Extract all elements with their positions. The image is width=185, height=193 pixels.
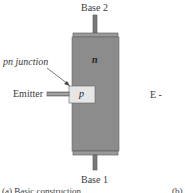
caption-a: (a) Basic construction [2,186,81,193]
emitter-label: Emitter [13,88,43,99]
pn-junction-text: pn junction [3,56,48,67]
base2-label: Base 2 [81,2,108,13]
base1-lead [93,155,97,170]
base1-label: Base 1 [81,174,108,185]
pn-junction-arrow [47,68,68,84]
caption-b: (b) [172,186,183,193]
base1-contact-plate [73,151,118,155]
n-region-label: n [92,54,98,65]
pn-junction-label: pn junction [3,56,48,67]
side-e-label: E - [150,89,162,100]
p-region-label: p [79,88,84,99]
base2-lead [93,15,97,34]
base2-contact-plate [73,33,118,37]
